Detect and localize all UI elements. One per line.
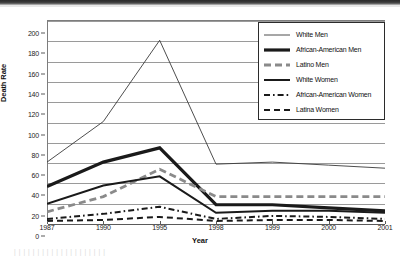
legend-label: White Women (296, 76, 338, 83)
x-axis-title: Year (0, 236, 400, 245)
y-tick-label: 200 (28, 30, 39, 37)
y-tick-mark (41, 33, 45, 34)
y-tick-label: 100 (28, 131, 39, 138)
ghost-text-line: | | | | | | | | | | | | | | | | | | | | (0, 248, 400, 255)
legend-label: Latino Men (296, 61, 329, 68)
x-tick-label: 1999 (265, 224, 280, 231)
legend-line-swatch (264, 29, 290, 41)
legend-item: White Women (264, 72, 379, 87)
legend-label: Latina Women (296, 106, 339, 113)
x-tick-label: 1990 (96, 224, 111, 231)
x-tick-label: 2001 (378, 224, 393, 231)
y-tick-mark (41, 195, 45, 196)
legend-line-swatch (264, 74, 290, 86)
y-tick-label: 140 (28, 90, 39, 97)
plot-wrapper: Death Rate 020406080100120140160180200 1… (0, 7, 400, 247)
y-tick-mark (41, 154, 45, 155)
y-axis-tick-labels: 020406080100120140160180200 (0, 20, 45, 223)
chart-legend: White MenAfrican-American MenLatino MenW… (258, 22, 385, 120)
x-tick-label: 1998 (209, 224, 224, 231)
legend-item: White Men (264, 27, 379, 42)
line-chart-figure: Death Rate 020406080100120140160180200 1… (0, 7, 400, 266)
y-tick-mark (41, 73, 45, 74)
x-tick-mark (385, 221, 386, 224)
legend-line-swatch (264, 59, 290, 71)
series-line (47, 148, 385, 211)
x-tick-mark (272, 221, 273, 224)
legend-label: African-American Men (296, 46, 361, 53)
x-tick-mark (329, 221, 330, 224)
y-tick-label: 20 (32, 212, 39, 219)
y-tick-mark (41, 93, 45, 94)
legend-item: Latino Men (264, 57, 379, 72)
y-tick-mark (41, 134, 45, 135)
y-tick-mark (41, 215, 45, 216)
x-tick-label: 1995 (152, 224, 167, 231)
y-tick-label: 180 (28, 50, 39, 57)
y-tick-label: 80 (32, 151, 39, 158)
y-tick-label: 160 (28, 70, 39, 77)
x-tick-mark (47, 221, 48, 224)
legend-line-swatch (264, 44, 290, 56)
y-tick-label: 60 (32, 172, 39, 179)
legend-item: Latina Women (264, 102, 379, 117)
x-tick-mark (160, 221, 161, 224)
legend-line-swatch (264, 89, 290, 101)
legend-item: African-American Women (264, 87, 379, 102)
y-tick-mark (41, 114, 45, 115)
legend-line-swatch (264, 104, 290, 116)
y-tick-mark (41, 53, 45, 54)
y-tick-mark (41, 175, 45, 176)
scan-ghost-text: | | | | | | | | | | | | | | | | | | | | (0, 248, 400, 266)
x-tick-label: 2000 (321, 224, 336, 231)
y-tick-label: 40 (32, 192, 39, 199)
legend-label: White Men (296, 31, 328, 38)
x-tick-mark (216, 221, 217, 224)
y-tick-label: 120 (28, 111, 39, 118)
x-tick-label: 1987 (40, 224, 55, 231)
legend-item: African-American Men (264, 42, 379, 57)
x-tick-mark (103, 221, 104, 224)
legend-label: African-American Women (296, 91, 371, 98)
